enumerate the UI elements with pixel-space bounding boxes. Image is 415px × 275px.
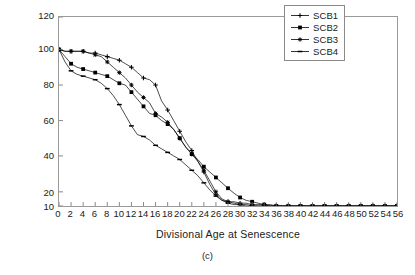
x-tick-24: 24 xyxy=(198,209,209,219)
x-tick-52: 52 xyxy=(368,209,379,219)
legend-label: SCB4 xyxy=(313,46,338,57)
x-tick-56: 56 xyxy=(393,209,404,219)
x-tick-22: 22 xyxy=(186,209,197,219)
legend-item-scb3: SCB3 xyxy=(289,33,338,45)
x-tick-0: 0 xyxy=(55,209,60,219)
axis-ticks xyxy=(59,17,397,206)
x-axis-title: Divisional Age at Senescence xyxy=(58,228,398,240)
series-scb2 xyxy=(59,48,397,206)
x-tick-42: 42 xyxy=(308,209,319,219)
chart-svg xyxy=(59,17,397,206)
y-axis-tick-labels: 1020406080100120 xyxy=(6,16,54,207)
y-tick-40: 40 xyxy=(10,151,54,161)
x-tick-4: 4 xyxy=(80,209,85,219)
x-tick-40: 40 xyxy=(296,209,307,219)
legend-label: SCB3 xyxy=(313,34,338,45)
chart-legend: SCB1SCB2SCB3SCB4 xyxy=(284,5,345,61)
legend-label: SCB2 xyxy=(313,22,338,33)
legend-item-scb4: SCB4 xyxy=(289,45,338,57)
x-tick-26: 26 xyxy=(211,209,222,219)
x-tick-14: 14 xyxy=(138,209,149,219)
y-tick-10: 10 xyxy=(10,202,54,212)
x-tick-2: 2 xyxy=(67,209,72,219)
x-tick-50: 50 xyxy=(356,209,367,219)
x-tick-48: 48 xyxy=(344,209,355,219)
series-scb1 xyxy=(59,47,397,206)
x-tick-12: 12 xyxy=(126,209,137,219)
x-tick-20: 20 xyxy=(174,209,185,219)
y-tick-100: 100 xyxy=(10,44,54,54)
legend-item-scb2: SCB2 xyxy=(289,21,338,33)
x-tick-6: 6 xyxy=(92,209,97,219)
x-tick-8: 8 xyxy=(104,209,109,219)
figure-caption: (c) xyxy=(0,250,415,261)
legend-marker-scb3-icon xyxy=(289,34,311,45)
figure-panel: Viability (%) 1020406080100120 024681012… xyxy=(0,0,415,275)
legend-item-scb1: SCB1 xyxy=(289,9,338,21)
x-tick-54: 54 xyxy=(381,209,392,219)
legend-label: SCB1 xyxy=(313,10,338,21)
x-tick-16: 16 xyxy=(150,209,161,219)
x-tick-32: 32 xyxy=(247,209,258,219)
x-tick-38: 38 xyxy=(283,209,294,219)
series-scb4 xyxy=(59,50,397,206)
series-scb3 xyxy=(59,47,397,206)
x-tick-46: 46 xyxy=(332,209,343,219)
x-tick-30: 30 xyxy=(235,209,246,219)
x-tick-36: 36 xyxy=(271,209,282,219)
plot-area xyxy=(58,16,398,207)
x-tick-44: 44 xyxy=(320,209,331,219)
legend-marker-scb4-icon xyxy=(289,46,311,57)
x-tick-34: 34 xyxy=(259,209,270,219)
y-tick-20: 20 xyxy=(10,188,54,198)
x-tick-10: 10 xyxy=(113,209,124,219)
x-axis-tick-labels: 0246810121416182022242628303234363840424… xyxy=(58,209,398,223)
y-tick-60: 60 xyxy=(10,116,54,126)
x-tick-28: 28 xyxy=(223,209,234,219)
y-tick-80: 80 xyxy=(10,80,54,90)
y-tick-120: 120 xyxy=(10,11,54,21)
x-tick-18: 18 xyxy=(162,209,173,219)
legend-marker-scb1-icon xyxy=(289,10,311,21)
legend-marker-scb2-icon xyxy=(289,22,311,33)
